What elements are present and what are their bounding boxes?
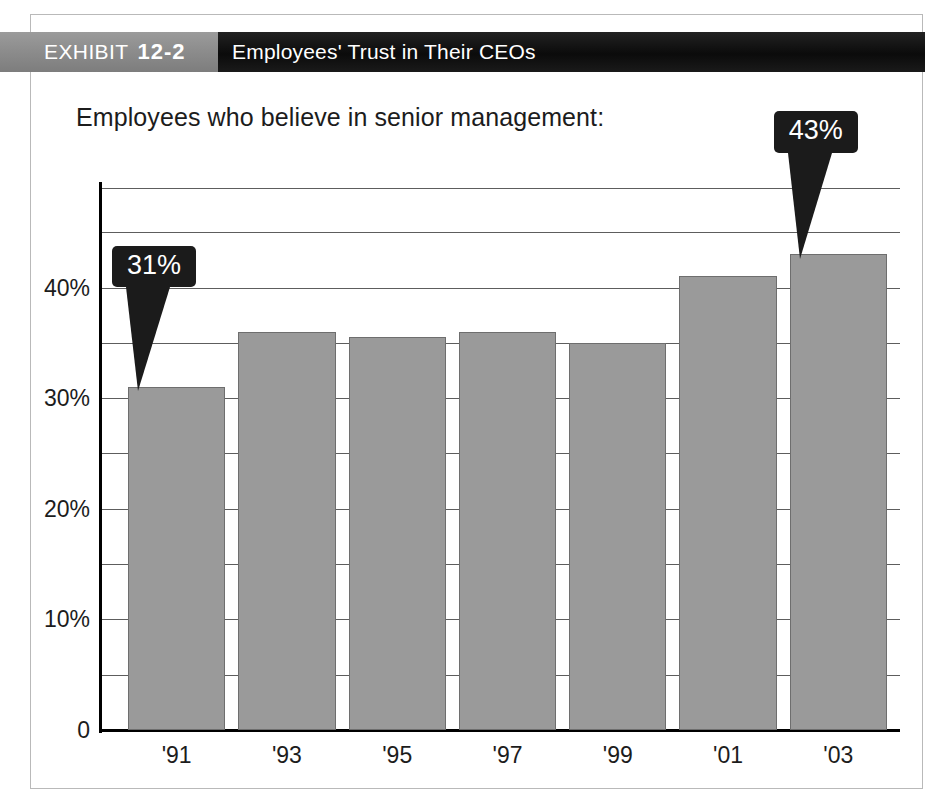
y-axis-tick-label: 0 (14, 717, 90, 744)
x-axis-tick-label: '93 (272, 742, 302, 769)
bar (128, 387, 225, 730)
y-axis-labels: 010%20%30%40% (10, 0, 90, 803)
value-callout: 43% (774, 111, 858, 152)
value-callout-label: 43% (774, 111, 858, 152)
bar (679, 276, 776, 730)
value-callout: 31% (112, 246, 196, 287)
value-callout-label: 31% (112, 246, 196, 287)
y-axis-tick-label: 30% (14, 385, 90, 412)
y-axis-line (99, 182, 102, 733)
y-axis-tick-label: 20% (14, 495, 90, 522)
y-axis-tick-label: 40% (14, 274, 90, 301)
x-axis-tick-label: '91 (162, 742, 192, 769)
exhibit-banner-right: Employees' Trust in Their CEOs (218, 32, 925, 72)
x-axis-tick-label: '03 (823, 742, 853, 769)
x-axis-tick-label: '01 (713, 742, 743, 769)
exhibit-title: Employees' Trust in Their CEOs (232, 40, 536, 64)
bar (238, 332, 335, 730)
exhibit-label: EXHIBIT (44, 40, 128, 64)
x-axis-tick-label: '95 (382, 742, 412, 769)
gridline (100, 288, 900, 289)
x-axis-tick-label: '99 (603, 742, 633, 769)
bar (569, 343, 666, 730)
callout-pointer-icon (112, 287, 196, 391)
bar-chart: 010%20%30%40% '91'93'95'97'99'01'0331%43… (0, 0, 950, 803)
y-axis-tick-label: 10% (14, 606, 90, 633)
exhibit-number: 12-2 (137, 39, 185, 65)
exhibit-banner: EXHIBIT 12-2 Employees' Trust in Their C… (0, 32, 925, 72)
bar (349, 337, 446, 730)
callout-pointer-icon (774, 153, 858, 259)
x-axis-tick-label: '97 (493, 742, 523, 769)
exhibit-banner-left: EXHIBIT 12-2 (0, 32, 218, 72)
bar (790, 254, 887, 730)
bar (459, 332, 556, 730)
